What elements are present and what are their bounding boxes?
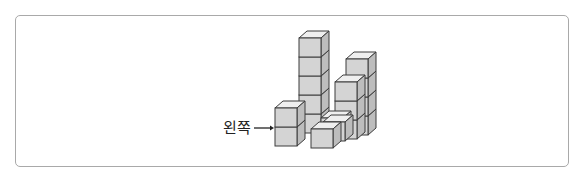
left-direction-label: 왼쪽 <box>223 119 251 137</box>
left-front-stack <box>275 101 305 146</box>
cube-structure-diagram <box>0 0 583 177</box>
arrow-icon <box>254 126 274 131</box>
